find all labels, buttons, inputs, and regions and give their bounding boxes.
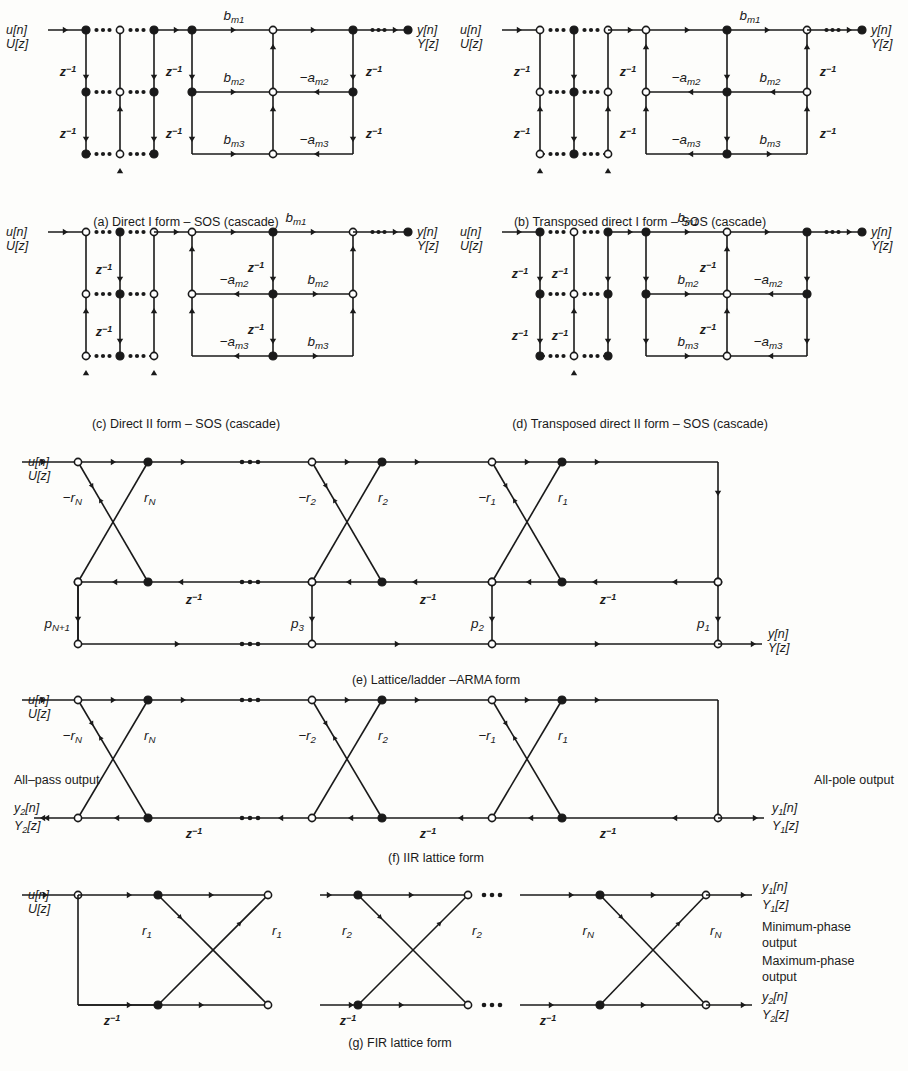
input-signal-e: u[n]U[z] <box>28 455 51 483</box>
fir-bot-arrow-a-g-1 <box>349 1002 354 1008</box>
input-arrow <box>63 27 68 33</box>
sos-arrow-7 <box>643 339 649 344</box>
ellipsis-dot <box>370 230 374 234</box>
left-delay-arrow-4 <box>151 75 157 80</box>
ellipsis-dot <box>240 698 245 703</box>
fir-node-bot-open-g-0 <box>264 1001 271 1008</box>
input-signal-a-top: u[n] <box>6 23 27 37</box>
input-signal-d-bottom: U[z] <box>460 239 483 253</box>
allpass-output-yz: Y2[z] <box>14 819 41 835</box>
delay-exponent: −1 <box>606 592 616 602</box>
node-left-a-1 <box>536 290 544 298</box>
delay-exponent: −1 <box>66 126 76 136</box>
sos-arrow-0 <box>231 229 236 235</box>
ellipsis-dot <box>548 28 552 32</box>
ellipsis-dot <box>582 152 586 156</box>
ellipsis-dot <box>595 230 599 234</box>
ladder-arrow-2 <box>489 617 495 622</box>
math-sub: 2 <box>382 734 389 745</box>
signal-tail: [z] <box>774 1008 789 1022</box>
delay-exponent: −1 <box>558 266 568 276</box>
bottom-rail-arrow-a-2 <box>526 579 531 585</box>
output-top-arrow-g <box>741 892 746 898</box>
ellipsis-dot <box>94 230 98 234</box>
top-rail-arrow-fa-0 <box>111 697 116 703</box>
sos-arrow-2 <box>234 291 239 297</box>
left-delay-arrow-2 <box>117 106 123 111</box>
delay-exponent: −1 <box>346 1013 356 1023</box>
delay-label-right-1: z−1 <box>165 126 183 142</box>
sos-arrow-4 <box>688 151 693 157</box>
sos-arrow-10 <box>804 44 810 49</box>
delay-exponent: −1 <box>826 126 836 136</box>
delay-label-right-1: z−1 <box>247 322 265 338</box>
ellipsis-left-2 <box>94 354 111 358</box>
ellipsis-dot <box>490 1003 495 1008</box>
fir-node-top-filled-g-1 <box>354 891 362 899</box>
node-left-c-1 <box>150 290 157 297</box>
ellipsis-dot <box>94 292 98 296</box>
lattice-node-top-open-2 <box>488 458 495 465</box>
ellipsis-dot <box>94 152 98 156</box>
ladder-node-top-3 <box>714 578 721 585</box>
reflection-pos-1: r2 <box>378 490 389 507</box>
ellipsis-dot <box>561 28 565 32</box>
coef-feedforward-0: bm1 <box>677 210 698 227</box>
ladder-arrow-1 <box>309 617 315 622</box>
ellipsis-dot <box>595 354 599 358</box>
input-signal-d: u[n]U[z] <box>460 225 483 253</box>
left-delay-arrow-2 <box>117 277 123 282</box>
bottom-rail-arrow-b-0 <box>178 579 183 585</box>
fir-node-top-filled-g-0 <box>154 891 162 899</box>
ellipsis-dot <box>94 354 98 358</box>
ellipsis-left2-2 <box>582 152 599 156</box>
top-rail-arrow-fb-1 <box>415 697 420 703</box>
sos-arrow-6 <box>189 75 195 80</box>
ellipsis-dot <box>548 292 552 296</box>
ellipsis-left-1 <box>94 292 111 296</box>
node-left-c-1 <box>604 290 612 298</box>
caption-c: (c) Direct II form – SOS (cascade) <box>92 417 280 431</box>
math-sub: m1 <box>685 216 699 227</box>
allpass-output-arrow <box>40 815 45 821</box>
allpole-output-note: All-pole output <box>814 773 894 787</box>
sos-node-1 <box>723 228 730 235</box>
math-sub: m3 <box>315 138 329 149</box>
ellipsis-dot <box>248 580 253 585</box>
ellipsis-dot <box>830 28 834 32</box>
ellipsis-dot <box>256 642 261 647</box>
ladder-coef-0: pN+1 <box>43 616 70 633</box>
ellipsis-dot <box>561 230 565 234</box>
left-delay-arrow-3 <box>117 339 123 344</box>
delay-label-f-2: z−1 <box>599 826 617 842</box>
sos-arrow-10 <box>350 75 356 80</box>
output-signal-e: y[n]Y[z] <box>767 627 790 655</box>
delay-label-e-0: z−1 <box>185 592 203 608</box>
ladder-node-bot-0 <box>74 640 81 647</box>
lattice-node-top-open-1 <box>308 458 315 465</box>
coef-feedback-0: −am2 <box>300 70 330 87</box>
sos-arrow-6 <box>643 277 649 282</box>
panel-c: u[n]U[z]z−1z−1z−1z−1bm1bm2bm3−am2−am3y[n… <box>6 210 439 375</box>
node-left-b-0 <box>570 26 578 34</box>
caption-a: (a) Direct I form – SOS (cascade) <box>93 215 278 229</box>
node-left-c-2 <box>604 150 611 157</box>
delay-label-left-1: z−1 <box>59 126 77 142</box>
math-sub: 2 <box>346 929 353 940</box>
sos-arrow-9 <box>270 339 276 344</box>
ellipsis-left2-1 <box>128 292 145 296</box>
input-signal-a-bottom: U[z] <box>6 37 29 51</box>
input-arrow <box>517 229 522 235</box>
delay-label-right-3: z−1 <box>819 126 837 142</box>
output-arrow <box>393 229 398 235</box>
math-sub: 1 <box>491 496 496 507</box>
math-base: −a <box>220 334 236 349</box>
lattice-node-top-open-0 <box>74 458 81 465</box>
node-left-c-1 <box>150 88 158 96</box>
ellipsis-dot <box>555 230 559 234</box>
sos-arrow-3 <box>314 89 319 95</box>
ladder-arrow-3 <box>715 617 721 622</box>
coef-feedforward-2: bm3 <box>759 132 781 149</box>
lattice-node-top-filled-0 <box>144 458 152 466</box>
sos-arrow-11 <box>350 308 356 313</box>
